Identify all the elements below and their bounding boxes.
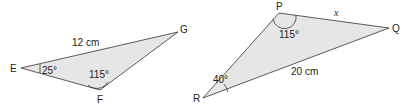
angle-f-label: 115°: [89, 69, 109, 80]
side-pq-label: x: [333, 7, 339, 18]
side-eg-label: 12 cm: [72, 37, 99, 48]
vertex-g-label: G: [180, 24, 188, 35]
side-rq-label: 20 cm: [291, 66, 318, 77]
vertex-r-label: R: [193, 93, 200, 104]
vertex-e-label: E: [10, 63, 17, 74]
angle-r-label: 40°: [213, 74, 228, 85]
similar-triangles-diagram: E G F 12 cm 25° 115° P Q R x 20 cm 115° …: [0, 0, 410, 110]
triangle-efg: E G F 12 cm 25° 115°: [10, 24, 188, 105]
vertex-q-label: Q: [392, 23, 400, 34]
angle-p-label: 115°: [279, 29, 299, 40]
vertex-p-label: P: [276, 1, 283, 12]
vertex-f-label: F: [97, 94, 103, 105]
angle-e-label: 25°: [42, 65, 57, 76]
triangle-pqr: P Q R x 20 cm 115° 40°: [193, 1, 400, 104]
